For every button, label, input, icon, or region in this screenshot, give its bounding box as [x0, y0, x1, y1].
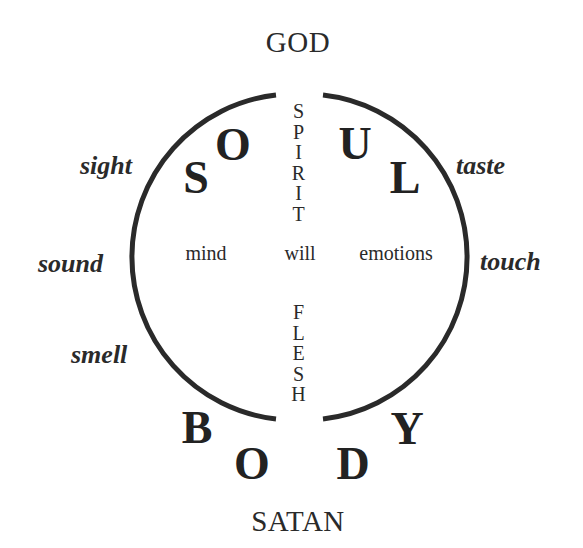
sense-sound: sound [38, 251, 103, 277]
flesh-letter: S [293, 364, 305, 385]
soul-letter-o: O [215, 122, 251, 168]
sense-taste: taste [456, 153, 505, 179]
spirit-letter: I [295, 183, 303, 204]
spirit-letter: T [292, 204, 305, 225]
spirit-vertical-word: S P I R I T [292, 101, 306, 224]
soul-letter-s: S [183, 155, 209, 201]
flesh-vertical-word: F L E S H [291, 302, 306, 405]
soul-letter-l: L [390, 155, 421, 201]
flesh-letter: F [293, 302, 305, 323]
spirit-letter: R [292, 163, 306, 184]
sense-touch: touch [480, 249, 541, 275]
soul-body-diagram: GOD SATAN S O U L B O D Y S P I R I T F … [0, 0, 583, 548]
body-letter-d: D [336, 441, 369, 487]
sense-smell: smell [71, 342, 127, 368]
body-letter-o: O [234, 441, 270, 487]
spirit-letter: S [293, 101, 305, 122]
faculty-mind: mind [185, 243, 226, 263]
spirit-letter: P [293, 122, 305, 143]
faculty-will: will [284, 243, 315, 263]
pole-bottom-label: SATAN [251, 507, 345, 536]
pole-top-label: GOD [266, 28, 330, 57]
soul-letter-u: U [338, 121, 371, 167]
flesh-letter: H [291, 384, 306, 405]
flesh-letter: L [292, 323, 305, 344]
spirit-letter: I [295, 142, 303, 163]
faculty-emotions: emotions [359, 243, 432, 263]
body-letter-b: B [182, 405, 213, 451]
body-letter-y: Y [390, 406, 423, 452]
sense-sight: sight [80, 153, 132, 179]
flesh-letter: E [292, 343, 305, 364]
